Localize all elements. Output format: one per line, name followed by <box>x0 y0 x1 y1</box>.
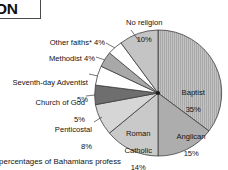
label-penticostal-text: Penticostal <box>55 125 92 134</box>
label-roman-catholic-text-2: Catholic <box>125 146 152 155</box>
label-penticostal: Penticostal 8% <box>18 117 92 160</box>
label-anglican-text: Anglican <box>176 132 205 141</box>
label-baptist: Baptist 35% <box>165 80 213 123</box>
label-penticostal-value: 8% <box>81 142 92 151</box>
label-roman-catholic-text-1: Roman <box>126 129 150 138</box>
footnote: aller percentages of Bahamians profess <box>0 157 222 167</box>
label-no-religion-text: No religion <box>126 18 162 27</box>
label-church-of-god-text: Church of God <box>36 98 85 107</box>
leader-line-methodist <box>96 57 105 60</box>
label-seventh-day-adventist-text: Seventh-day Adventist <box>12 78 88 87</box>
label-methodist: Methodist 4% <box>22 55 95 64</box>
chart-figure: GION <box>0 0 228 170</box>
label-other-faiths: Other faiths* 4% <box>22 39 105 48</box>
pie-center-hub <box>156 91 160 95</box>
leader-line-seventh-day-adventist <box>89 74 98 76</box>
label-no-religion-value: 10% <box>137 35 152 44</box>
label-baptist-text: Baptist <box>182 88 205 97</box>
label-no-religion: No religion 10% <box>104 10 176 53</box>
label-baptist-value: 35% <box>186 105 201 114</box>
